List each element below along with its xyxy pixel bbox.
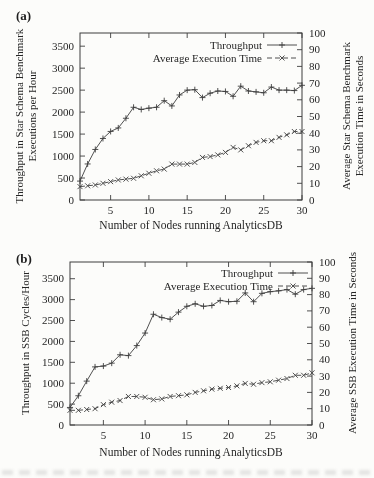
y-tick-label-left: 2000 — [42, 335, 65, 347]
y-axis-label-right-a: Average Star Schema Benchmark Execution … — [340, 16, 366, 216]
plot-area-a: 5101520253005001000150020002500300035000… — [0, 0, 374, 239]
y-axis-label-left-a: Throughput in Star Schema Benchmark Exec… — [13, 16, 39, 216]
scanned-figure: 5101520253005001000150020002500300035000… — [0, 0, 374, 478]
y-tick-label-left: 1000 — [42, 377, 65, 389]
y-tick-label-left: 0 — [69, 194, 75, 206]
legend-label-1: Average Execution Time — [164, 280, 273, 292]
y-tick-label-left: 3000 — [52, 62, 75, 74]
x-tick-label: 15 — [181, 429, 193, 441]
legend-label-0: Throughput — [210, 39, 262, 51]
x-axis-label-b: Number of Nodes running AnalyticsDB — [61, 446, 321, 458]
x-tick-label: 5 — [101, 429, 107, 441]
y-tick-label-right: 50 — [319, 337, 331, 349]
y-tick-label-right: 40 — [319, 353, 331, 365]
y-tick-label-left: 3500 — [42, 272, 65, 284]
y-tick-label-right: 50 — [309, 110, 321, 122]
y-tick-label-right: 40 — [309, 127, 321, 139]
y-tick-label-right: 90 — [309, 43, 321, 55]
y-axis-label-right-b: Average SSB Execution Time in Seconds — [346, 238, 360, 448]
y-tick-label-right: 0 — [309, 194, 315, 206]
y-tick-label-left: 500 — [58, 172, 75, 184]
y-tick-label-left: 2500 — [42, 314, 65, 326]
chart-panel-b: 5101520253005001000150020002500300035000… — [0, 239, 374, 478]
x-tick-label: 5 — [108, 204, 114, 216]
x-axis-label-a: Number of Nodes running AnalyticsDB — [61, 219, 321, 231]
x-tick-label: 15 — [182, 204, 194, 216]
plot-area-b: 5101520253005001000150020002500300035000… — [0, 239, 374, 478]
y-tick-label-left: 500 — [48, 398, 65, 410]
y-tick-label-left: 1000 — [52, 150, 75, 162]
y-tick-label-right: 0 — [319, 419, 325, 431]
y-tick-label-left: 0 — [59, 419, 65, 431]
legend-label-0: Throughput — [221, 267, 273, 279]
series-line-1 — [70, 373, 312, 410]
y-tick-label-right: 30 — [319, 370, 331, 382]
x-tick-label: 30 — [297, 204, 309, 216]
x-tick-label: 20 — [220, 204, 232, 216]
series-line-0 — [80, 85, 302, 181]
y-tick-label-left: 1500 — [52, 128, 75, 140]
y-tick-label-right: 10 — [309, 177, 321, 189]
x-tick-label: 30 — [307, 429, 319, 441]
y-tick-label-left: 2000 — [52, 106, 75, 118]
x-tick-label: 20 — [223, 429, 235, 441]
y-tick-label-right: 100 — [309, 27, 326, 39]
y-axis-label-left-b: Throughput in SSB Cycles/Hour — [19, 243, 33, 443]
y-tick-label-right: 60 — [319, 321, 331, 333]
series-line-0 — [70, 288, 312, 407]
x-tick-label: 10 — [140, 429, 152, 441]
cropped-caption-fragment — [2, 470, 372, 475]
y-tick-label-left: 2500 — [52, 84, 75, 96]
y-tick-label-left: 3500 — [52, 40, 75, 52]
y-tick-label-right: 80 — [319, 288, 331, 300]
y-tick-label-right: 10 — [319, 402, 331, 414]
x-tick-label: 25 — [265, 429, 277, 441]
y-tick-label-right: 100 — [319, 256, 336, 268]
y-tick-label-right: 30 — [309, 143, 321, 155]
y-tick-label-right: 70 — [309, 77, 321, 89]
y-tick-label-right: 60 — [309, 93, 321, 105]
series-line-1 — [80, 132, 302, 187]
y-tick-label-left: 1500 — [42, 356, 65, 368]
x-tick-label: 10 — [143, 204, 155, 216]
y-tick-label-right: 70 — [319, 304, 331, 316]
y-tick-label-right: 20 — [309, 160, 321, 172]
y-tick-label-right: 90 — [319, 272, 331, 284]
y-tick-label-right: 20 — [319, 386, 331, 398]
chart-panel-a: 5101520253005001000150020002500300035000… — [0, 0, 374, 239]
x-tick-label: 25 — [258, 204, 270, 216]
legend-label-1: Average Execution Time — [153, 52, 262, 64]
y-tick-label-left: 3000 — [42, 293, 65, 305]
y-tick-label-right: 80 — [309, 60, 321, 72]
